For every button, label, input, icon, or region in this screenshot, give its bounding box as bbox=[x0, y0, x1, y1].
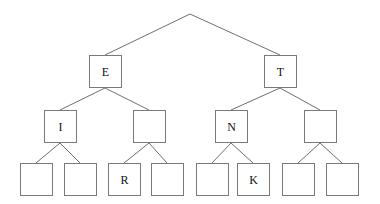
tree-node-label: N bbox=[227, 121, 236, 133]
tree-edge bbox=[105, 88, 149, 110]
tree-leaf-7[interactable] bbox=[282, 163, 315, 196]
tree-node-label: E bbox=[102, 66, 109, 78]
tree-node-i[interactable]: I bbox=[44, 110, 77, 143]
tree-edge bbox=[298, 143, 320, 163]
tree-edge bbox=[60, 143, 80, 163]
tree-node-label: K bbox=[249, 174, 258, 186]
tree-edge bbox=[212, 143, 231, 163]
tree-edge bbox=[320, 143, 342, 163]
tree-edge bbox=[124, 143, 149, 163]
tree-edge bbox=[149, 143, 167, 163]
tree-node-e[interactable]: E bbox=[89, 55, 122, 88]
tree-node-empty-2[interactable] bbox=[133, 110, 166, 143]
tree-node-label: T bbox=[277, 66, 284, 78]
tree-edge bbox=[105, 14, 190, 55]
tree-node-label: R bbox=[120, 174, 128, 186]
tree-node-t[interactable]: T bbox=[264, 55, 297, 88]
tree-edge bbox=[60, 88, 105, 110]
tree-leaf-k[interactable]: K bbox=[237, 163, 270, 196]
tree-edge bbox=[36, 143, 60, 163]
tree-edge bbox=[231, 88, 280, 110]
tree-leaf-2[interactable] bbox=[64, 163, 97, 196]
tree-leaf-r[interactable]: R bbox=[108, 163, 141, 196]
tree-leaf-5[interactable] bbox=[196, 163, 229, 196]
tree-edge bbox=[280, 88, 320, 110]
tree-leaf-1[interactable] bbox=[20, 163, 53, 196]
tree-edge-layer bbox=[0, 0, 380, 204]
tree-leaf-4[interactable] bbox=[151, 163, 184, 196]
tree-root-apex bbox=[190, 14, 191, 15]
tree-edge bbox=[190, 14, 280, 55]
binary-tree-diagram: E T I N R K bbox=[0, 0, 380, 204]
tree-node-n[interactable]: N bbox=[215, 110, 248, 143]
tree-leaf-8[interactable] bbox=[326, 163, 359, 196]
tree-node-label: I bbox=[59, 121, 63, 133]
tree-edge bbox=[231, 143, 253, 163]
tree-node-empty-4[interactable] bbox=[304, 110, 337, 143]
